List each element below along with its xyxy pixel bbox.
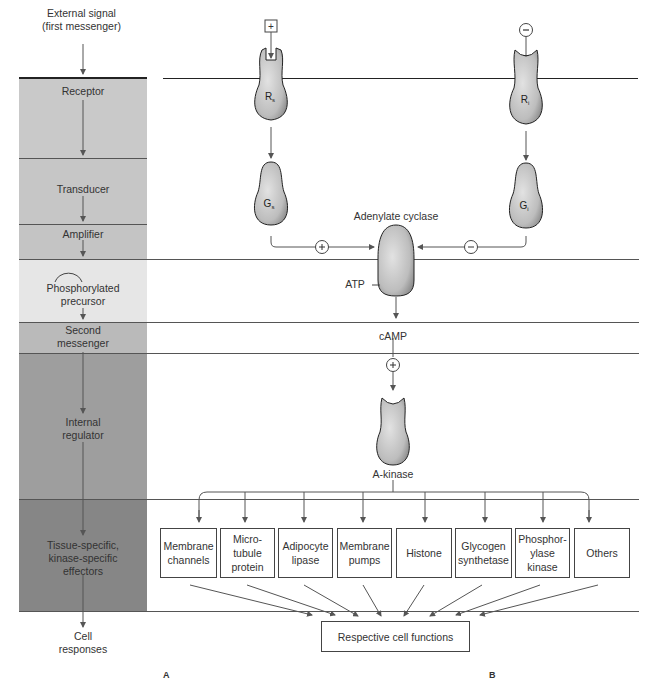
effector-text: tubule bbox=[231, 546, 263, 560]
camp-label: cAMP bbox=[363, 330, 423, 342]
effector-phosphorylase-kinase: Phosphor-ylasekinase bbox=[515, 528, 570, 578]
atp-label: ATP bbox=[338, 278, 372, 290]
effector-text: Histone bbox=[406, 546, 442, 560]
g-protein-gi-shape: Gi bbox=[509, 163, 542, 228]
respective-cell-functions-box: Respective cell functions bbox=[321, 621, 470, 652]
receptor-ri-shape: Ri bbox=[510, 50, 543, 124]
effector-others: Others bbox=[574, 528, 630, 578]
effector-text: protein bbox=[231, 560, 263, 574]
effector-text: lipase bbox=[282, 553, 328, 567]
converging-arrows bbox=[190, 585, 598, 616]
effector-text: Membrane bbox=[339, 539, 389, 553]
effector-membrane-channels: Membranechannels bbox=[160, 528, 217, 578]
effector-text: synthetase bbox=[458, 553, 509, 567]
effector-membrane-pumps: Membranepumps bbox=[337, 528, 392, 578]
effector-text: pumps bbox=[339, 553, 389, 567]
svg-text:Gi: Gi bbox=[519, 200, 528, 212]
inhibit-sign-icon bbox=[465, 241, 478, 254]
camp-stimulate-sign-icon bbox=[387, 359, 400, 372]
effector-text: Glycogen bbox=[458, 539, 509, 553]
diagram-graphics: + Rs Ri Gs Gi bbox=[0, 0, 651, 694]
panel-a-flow-arrows bbox=[55, 44, 83, 627]
effector-text: Adipocyte bbox=[282, 539, 328, 553]
effector-histone: Histone bbox=[396, 528, 452, 578]
effector-text: Others bbox=[586, 546, 618, 560]
effector-text: channels bbox=[163, 553, 213, 567]
effector-text: Micro- bbox=[231, 532, 263, 546]
stimulate-sign-icon bbox=[316, 241, 329, 254]
effector-branch-arrows bbox=[199, 492, 589, 522]
adenylate-cyclase-shape bbox=[372, 225, 414, 296]
receptor-rs-shape: Rs bbox=[255, 48, 288, 120]
effector-adipocyte-lipase: Adipocytelipase bbox=[278, 528, 333, 578]
effector-glycogen-synthetase: Glycogensynthetase bbox=[455, 528, 512, 578]
adenylate-cyclase-label: Adenylate cyclase bbox=[330, 210, 462, 222]
effector-text: kinase bbox=[518, 560, 566, 574]
effector-microtubule-protein: Micro-tubuleprotein bbox=[220, 528, 275, 578]
a-kinase-label: A-kinase bbox=[353, 468, 433, 480]
effector-text: Phosphor- bbox=[518, 532, 566, 546]
effector-text: Membrane bbox=[163, 539, 213, 553]
stimulatory-signal-icon: + bbox=[265, 20, 277, 58]
a-kinase-shape bbox=[377, 398, 410, 465]
svg-text:+: + bbox=[268, 21, 274, 32]
g-protein-gs-shape: Gs bbox=[254, 162, 287, 225]
effector-text: ylase bbox=[518, 546, 566, 560]
